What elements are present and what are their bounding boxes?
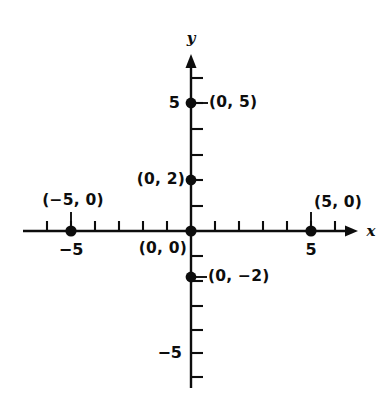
x-tick-label-minus5: −5 <box>59 242 84 258</box>
x-tick-label-5: 5 <box>305 242 316 258</box>
point-0-5 <box>186 98 197 109</box>
coordinate-plane-figure: y x −5 5 5 −5 (0, 5) (0, 2) (0, 0) (0, −… <box>0 0 388 415</box>
point-minus5-0 <box>65 225 76 236</box>
point-label-0-0: (0, 0) <box>139 241 187 257</box>
point-label-minus5-0: (−5, 0) <box>42 193 103 209</box>
point-label-5-0: (5, 0) <box>314 195 362 211</box>
y-axis-arrowhead <box>186 54 197 68</box>
point-0-0 <box>185 225 196 236</box>
point-label-0-5: (0, 5) <box>209 95 257 111</box>
y-tick-label-5: 5 <box>169 95 180 111</box>
x-axis-arrowhead <box>345 226 358 237</box>
point-label-0-minus2: (0, −2) <box>208 269 269 285</box>
y-axis-label: y <box>187 31 196 46</box>
point-label-0-2: (0, 2) <box>137 172 185 188</box>
point-0-minus2 <box>186 272 197 283</box>
y-tick-label-minus5: −5 <box>157 345 182 361</box>
point-5-0 <box>305 225 316 236</box>
point-0-2 <box>186 175 197 186</box>
x-axis-label: x <box>367 224 376 239</box>
